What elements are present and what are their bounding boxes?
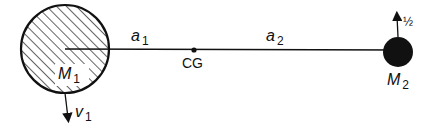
separation-line: [65, 49, 400, 50]
label-m1: M1: [58, 66, 80, 85]
body-m2: [383, 37, 413, 67]
label-a1: a1: [131, 28, 149, 47]
label-m2: M2: [387, 72, 409, 91]
label-v1: v1: [75, 104, 92, 123]
cg-point: [191, 47, 196, 52]
velocity-arrow-v1: [65, 93, 68, 118]
label-a2: a2: [266, 28, 284, 47]
label-v2: ½: [403, 16, 413, 28]
label-cg: CG: [182, 56, 203, 70]
velocity-arrow-v2: [397, 16, 398, 37]
